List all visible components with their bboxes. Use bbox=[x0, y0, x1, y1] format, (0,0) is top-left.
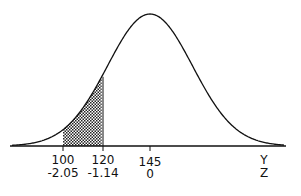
tick-label-z-120: -1.14 bbox=[87, 166, 118, 180]
tick-label-y-100: 100 bbox=[52, 153, 75, 167]
normal-curve bbox=[12, 14, 284, 145]
axis-label-y: Y bbox=[260, 153, 267, 167]
tick-label-y-120: 120 bbox=[92, 153, 115, 167]
tick-label-z-100: -2.05 bbox=[47, 166, 78, 180]
tick-label-z-145: 0 bbox=[146, 167, 154, 181]
axis-label-z: Z bbox=[260, 166, 268, 180]
